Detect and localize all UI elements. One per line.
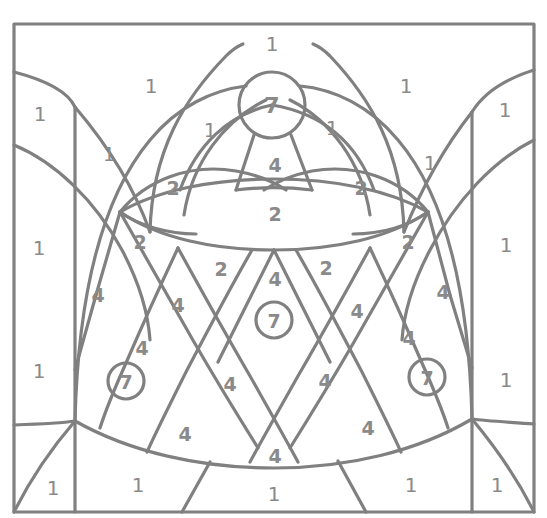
line-art-svg [0,0,547,518]
page-background [0,0,547,518]
coloring-page-canvas: 11111111111111111122222224444444444444 7… [0,0,547,518]
